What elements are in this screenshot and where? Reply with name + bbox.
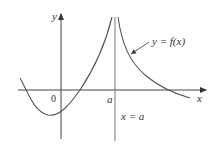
y-axis-label: y <box>51 10 57 22</box>
curve-left-branch <box>20 17 112 115</box>
curve-label: y = f(x) <box>151 35 185 48</box>
asymptote-label: x = a <box>120 110 145 122</box>
origin-label: 0 <box>51 93 56 104</box>
a-tick-label: a <box>107 93 113 105</box>
curve-right-branch <box>118 17 190 98</box>
function-graph: y x 0 a x = a y = f(x) <box>0 0 216 148</box>
graph-canvas: y x 0 a x = a y = f(x) <box>0 0 216 148</box>
x-axis-label: x <box>196 92 202 104</box>
curve-label-pointer <box>131 42 149 54</box>
